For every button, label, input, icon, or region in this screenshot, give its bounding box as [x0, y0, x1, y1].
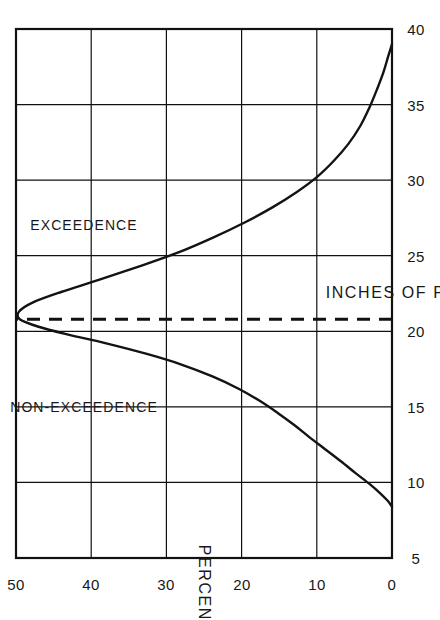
y-tick-label: 20 — [233, 576, 251, 593]
figure-rotator: 510152025303540 01020304050 INCHES OF PR… — [0, 0, 440, 620]
y-tick-label: 30 — [158, 576, 176, 593]
percent-chance-curve — [17, 44, 392, 507]
x-axis-title: INCHES OF PRECIPITATION — [326, 285, 440, 303]
x-tick-label: 35 — [407, 96, 425, 113]
exceedence-label: EXCEEDENCE — [30, 218, 137, 234]
y-tick-label: 50 — [7, 576, 25, 593]
x-tick-label: 40 — [407, 21, 425, 38]
precipitation-probability-chart: 510152025303540 01020304050 INCHES OF PR… — [0, 0, 440, 620]
x-tick-label: 5 — [412, 550, 421, 567]
x-tick-label: 30 — [407, 172, 425, 189]
y-tick-label: 40 — [82, 576, 100, 593]
x-tick-label: 15 — [407, 398, 425, 415]
non-exceedence-label: NON-EXCEEDENCE — [10, 399, 158, 415]
x-tick-label: 20 — [407, 323, 425, 340]
y-axis-title: PERCENT CHANCE — [195, 545, 213, 620]
y-tick-label: 10 — [308, 576, 326, 593]
gridlines-y — [91, 29, 317, 558]
x-tick-label: 25 — [407, 247, 425, 264]
chart-plot-area — [0, 0, 440, 620]
x-tick-label: 10 — [407, 474, 425, 491]
y-tick-label: 0 — [388, 576, 397, 593]
